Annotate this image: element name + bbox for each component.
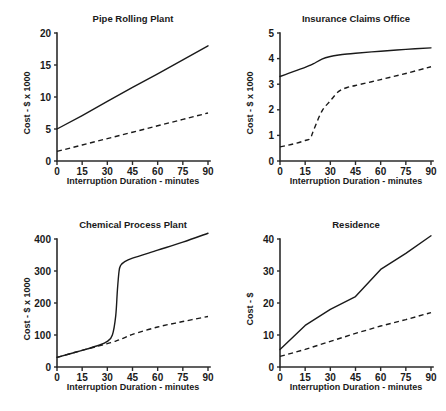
x-axis-title: Interruption Duration - minutes	[290, 382, 423, 392]
y-axis-group: 012345	[268, 28, 280, 167]
y-tick-label: 0	[268, 362, 274, 373]
y-tick-label: 4	[268, 53, 274, 64]
y-tick-label: 20	[263, 298, 275, 309]
x-tick-label: 90	[425, 166, 437, 177]
series-group	[57, 233, 208, 357]
x-tick-label: 0	[277, 166, 283, 177]
y-tick-label: 0	[45, 362, 51, 373]
chart-svg-chemical-process-plant: Chemical Process Plant 0100200300400 015…	[0, 206, 223, 411]
chart-panel-chemical-process-plant: Chemical Process Plant 0100200300400 015…	[0, 206, 223, 411]
series-line-upper	[57, 233, 208, 357]
y-tick-label: 100	[34, 330, 51, 341]
series-line-upper	[280, 236, 431, 350]
x-axis-title: Interruption Duration - minutes	[67, 176, 200, 186]
y-tick-label: 5	[268, 28, 274, 39]
y-tick-label: 40	[263, 234, 275, 245]
x-tick-label: 90	[202, 166, 214, 177]
y-tick-label: 10	[263, 330, 275, 341]
series-group	[280, 236, 431, 357]
x-axis-group: 0153045607590	[277, 367, 437, 383]
x-tick-label: 0	[54, 166, 60, 177]
x-axis-title: Interruption Duration - minutes	[67, 382, 200, 392]
y-tick-label: 20	[40, 28, 52, 39]
x-axis-group: 0153045607590	[277, 161, 437, 177]
chart-panel-residence: Residence 010203040 0153045607590 Interr…	[223, 206, 446, 411]
series-group	[57, 46, 208, 152]
y-axis-group: 010203040	[263, 234, 280, 373]
x-axis-group: 0153045607590	[54, 161, 214, 177]
y-tick-label: 0	[45, 156, 51, 167]
chart-panel-insurance-claims-office: Insurance Claims Office 012345 015304560…	[223, 0, 446, 205]
chart-panel-pipe-rolling-plant: Pipe Rolling Plant 05101520 015304560759…	[0, 0, 223, 205]
y-tick-label: 30	[263, 266, 275, 277]
series-group	[280, 48, 431, 147]
x-axis-group: 0153045607590	[54, 367, 214, 383]
x-tick-label: 0	[54, 372, 60, 383]
series-line-lower	[280, 313, 431, 357]
y-tick-label: 0	[268, 156, 274, 167]
chart-svg-pipe-rolling-plant: Pipe Rolling Plant 05101520 015304560759…	[0, 0, 223, 205]
y-tick-label: 1	[268, 130, 274, 141]
chart-svg-insurance-claims-office: Insurance Claims Office 012345 015304560…	[223, 0, 446, 205]
x-tick-label: 90	[202, 372, 214, 383]
series-line-lower	[57, 113, 208, 151]
chart-title: Insurance Claims Office	[302, 13, 410, 24]
x-tick-label: 90	[425, 372, 437, 383]
y-tick-label: 2	[268, 104, 274, 115]
y-axis-title: Cost - $	[245, 292, 255, 325]
series-line-lower	[280, 67, 431, 147]
chart-title: Residence	[332, 219, 380, 230]
y-axis-title: Cost - $ x 1000	[245, 71, 255, 134]
four-panel-chart-figure: Pipe Rolling Plant 05101520 015304560759…	[0, 0, 446, 411]
y-tick-label: 300	[34, 266, 51, 277]
chart-title: Pipe Rolling Plant	[93, 13, 175, 24]
y-axis-title: Cost - $ x 1000	[22, 71, 32, 134]
y-tick-label: 15	[40, 60, 52, 71]
chart-title: Chemical Process Plant	[79, 219, 188, 230]
y-tick-label: 5	[45, 124, 51, 135]
y-axis-title: Cost - $ x 1000	[22, 277, 32, 340]
series-line-upper	[57, 46, 208, 129]
y-tick-label: 200	[34, 298, 51, 309]
chart-svg-residence: Residence 010203040 0153045607590 Interr…	[223, 206, 446, 411]
y-axis-group: 05101520	[40, 28, 57, 167]
y-tick-label: 10	[40, 92, 52, 103]
y-tick-label: 3	[268, 79, 274, 90]
y-tick-label: 400	[34, 234, 51, 245]
y-axis-group: 0100200300400	[34, 234, 57, 373]
series-line-upper	[280, 48, 431, 77]
x-tick-label: 0	[277, 372, 283, 383]
x-axis-title: Interruption Duration - minutes	[290, 176, 423, 186]
